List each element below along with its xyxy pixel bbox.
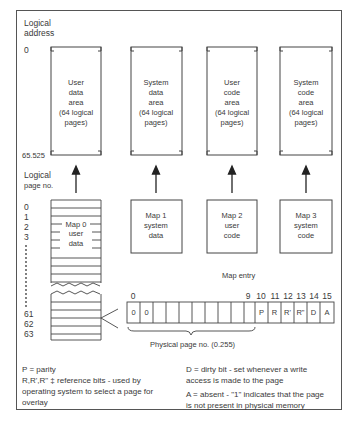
- area-label-user-code: User code area (64 logical pages): [215, 78, 250, 127]
- logical-page-label-1: Logical: [24, 170, 51, 180]
- legend-dirty-2: access is made to the page: [186, 375, 342, 386]
- legend-parity: P = parity: [22, 364, 182, 375]
- area-label-user-data: User data area (64 logical pages): [59, 78, 94, 127]
- svg-text:(64 logical: (64 logical: [215, 108, 250, 117]
- logical-address-label-1: Logical: [24, 18, 51, 28]
- svg-text:Map 0: Map 0: [66, 220, 87, 229]
- ellipsis-dots: [25, 245, 27, 307]
- svg-text:code: code: [298, 231, 314, 240]
- legend-reference-bits-1: R,R',R" ‡ reference bits - used by: [22, 375, 182, 386]
- svg-text:User: User: [224, 78, 240, 87]
- addr-start-label: 0: [24, 45, 29, 55]
- svg-text:system: system: [144, 221, 168, 230]
- svg-text:Map 2: Map 2: [222, 211, 243, 220]
- svg-text:R: R: [272, 308, 278, 317]
- svg-text:0: 0: [131, 291, 136, 301]
- legend-right: D = dirty bit - set whenever a write acc…: [186, 364, 342, 411]
- svg-text:12: 12: [283, 291, 293, 301]
- svg-text:15: 15: [322, 291, 332, 301]
- svg-text:pages): pages): [145, 118, 168, 127]
- svg-text:14: 14: [309, 291, 319, 301]
- addr-end-label: 65.525: [22, 151, 45, 160]
- map-label-1: Map 1 system data: [144, 211, 168, 240]
- svg-text:system: system: [294, 221, 318, 230]
- svg-text:data: data: [69, 239, 84, 248]
- svg-text:9: 9: [246, 291, 251, 301]
- legend-left: P = parity R,R',R" ‡ reference bits - us…: [22, 364, 182, 408]
- map-entry-title: Map entry: [222, 271, 256, 280]
- svg-text:user: user: [69, 229, 84, 238]
- page-number: 2: [24, 222, 29, 232]
- legend-absent-1: A = absent - "1" indicates that the page: [186, 389, 342, 400]
- svg-text:A: A: [324, 308, 329, 317]
- area-boxes: [51, 47, 332, 155]
- area-label-system-code: System code area (64 logical pages): [289, 78, 324, 127]
- svg-text:Map 3: Map 3: [296, 211, 317, 220]
- svg-text:code: code: [224, 231, 240, 240]
- svg-text:11: 11: [271, 291, 280, 301]
- brace-icon: [128, 327, 255, 335]
- svg-text:13: 13: [296, 291, 306, 301]
- map-entry-cells: 0 0 P R R' R" D A: [131, 308, 329, 317]
- svg-text:System: System: [143, 78, 168, 87]
- map-label-0: Map 0 user data: [66, 220, 87, 248]
- svg-text:System: System: [293, 78, 318, 87]
- svg-text:0: 0: [131, 308, 135, 317]
- svg-text:R": R": [296, 308, 304, 317]
- page-number: 62: [24, 319, 34, 329]
- svg-text:user: user: [225, 221, 240, 230]
- svg-text:D: D: [311, 308, 317, 317]
- svg-text:pages): pages): [295, 118, 318, 127]
- svg-text:0: 0: [144, 308, 148, 317]
- map-label-3: Map 3 system code: [294, 211, 318, 240]
- legend-dirty-1: D = dirty bit - set whenever a write: [186, 364, 342, 375]
- page-number: 3: [24, 232, 29, 242]
- svg-text:(64 logical: (64 logical: [59, 108, 94, 117]
- svg-text:Map 1: Map 1: [146, 211, 167, 220]
- svg-text:area: area: [148, 98, 164, 107]
- area-label-system-data: System data area (64 logical pages): [139, 78, 174, 127]
- svg-text:(64 logical: (64 logical: [139, 108, 174, 117]
- legend-reference-bits-2: operating system to select a page for: [22, 386, 182, 397]
- svg-text:data: data: [149, 231, 164, 240]
- map-label-2: Map 2 user code: [222, 211, 243, 240]
- logical-address-label-2: address: [24, 28, 54, 38]
- page-number: 61: [24, 309, 34, 319]
- svg-text:area: area: [224, 98, 240, 107]
- page-number: 63: [24, 329, 34, 339]
- svg-text:code: code: [298, 88, 314, 97]
- svg-text:User: User: [68, 78, 84, 87]
- legend-absent-2: is not present in physical memory: [186, 400, 342, 411]
- legend-reference-bits-3: overlay: [22, 397, 182, 408]
- svg-text:pages): pages): [221, 118, 244, 127]
- svg-text:R': R': [284, 308, 291, 317]
- svg-text:data: data: [69, 88, 84, 97]
- page-number: 1: [24, 212, 29, 222]
- svg-text:area: area: [298, 98, 314, 107]
- svg-text:data: data: [149, 88, 164, 97]
- physical-page-label: Physical page no. (0.255): [150, 340, 236, 349]
- page-number: 0: [24, 202, 29, 212]
- arrow-icons: [73, 166, 310, 193]
- svg-text:code: code: [224, 88, 240, 97]
- svg-text:10: 10: [256, 291, 266, 301]
- svg-text:area: area: [68, 98, 84, 107]
- logical-page-label-2: page no.: [24, 181, 53, 190]
- svg-text:P: P: [259, 308, 264, 317]
- svg-text:(64 logical: (64 logical: [289, 108, 324, 117]
- bit-labels: 0 9 10 11 12 13 14 15: [131, 291, 332, 301]
- svg-text:pages): pages): [65, 118, 88, 127]
